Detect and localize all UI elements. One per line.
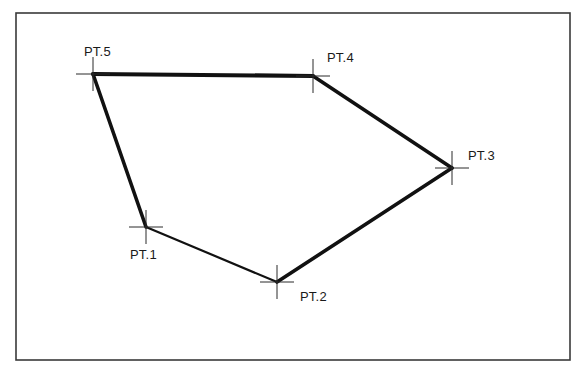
edge-pt4-pt5	[93, 74, 313, 76]
point-markers	[76, 57, 469, 299]
point-label-pt5: PT.5	[84, 45, 111, 58]
crosshair-icon	[296, 59, 330, 93]
edge-pt2-pt3	[277, 168, 452, 282]
point-label-pt1: PT.1	[130, 248, 157, 261]
diagram-frame	[16, 13, 570, 360]
point-label-pt3: PT.3	[468, 149, 495, 162]
crosshair-icon	[76, 57, 110, 91]
crosshair-icon	[260, 265, 294, 299]
edge-pt3-pt4	[313, 76, 452, 168]
point-label-pt4: PT.4	[327, 51, 354, 64]
edge-pt1-pt2	[146, 227, 277, 282]
crosshair-icon	[435, 151, 469, 185]
edge-pt5-pt1	[93, 74, 146, 227]
point-label-pt2: PT.2	[300, 290, 327, 303]
crosshair-icon	[129, 210, 163, 244]
diagram-canvas: PT.1 PT.2 PT.3 PT.4 PT.5	[0, 0, 584, 373]
